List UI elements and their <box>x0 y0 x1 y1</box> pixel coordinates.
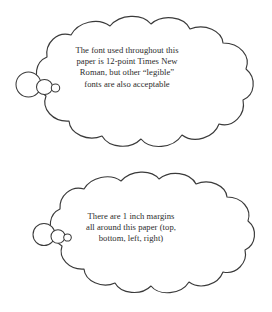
bubble2-line-1: There are 1 inch margins <box>60 211 202 222</box>
margin-requirement-bubble <box>0 0 272 312</box>
bubble2-line-3: bottom, left, right) <box>60 233 202 244</box>
thought-bubble-illustration: The font used throughout this paper is 1… <box>0 0 272 312</box>
bubble2-line-2: all around this paper (top, <box>60 222 202 233</box>
margin-requirement-text: There are 1 inch margins all around this… <box>60 211 202 245</box>
